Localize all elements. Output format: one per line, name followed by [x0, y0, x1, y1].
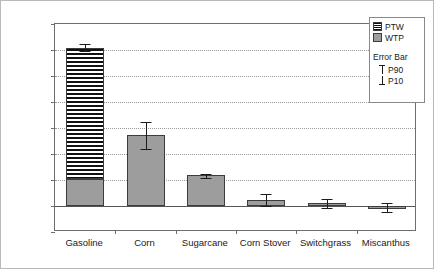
gridline: [55, 76, 415, 77]
y-tick-mark: [51, 180, 55, 181]
error-bar-cap-p90: [321, 199, 332, 200]
error-bar-cap-p10: [200, 178, 211, 179]
x-tick-label: Miscanthus: [362, 237, 410, 248]
y-tick-mark: [51, 50, 55, 51]
legend-error-bar-title: Error Bar: [373, 52, 424, 62]
x-tick-label: Gasoline: [65, 237, 103, 248]
gridline: [55, 50, 415, 51]
error-bar-cap-p90: [200, 174, 211, 175]
legend-item-ptw: PTW: [373, 21, 424, 32]
error-bar-cap-p10: [140, 149, 151, 150]
x-tick-mark: [115, 230, 116, 234]
y-tick-mark: [51, 154, 55, 155]
legend-item-wtp: WTP: [373, 32, 424, 43]
legend-label-p10: P10: [388, 76, 403, 86]
y-tick-mark: [51, 102, 55, 103]
error-bar-stem: [387, 203, 388, 212]
y-tick-mark: [51, 128, 55, 129]
bar-group[interactable]: [66, 24, 104, 230]
x-tick-label: Switchgrass: [300, 237, 351, 248]
bar-group[interactable]: [247, 24, 285, 230]
error-bar-cap-p10: [80, 51, 91, 52]
bar-segment-wtp[interactable]: [66, 179, 104, 206]
legend-swatch-ptw-icon: [373, 22, 382, 31]
y-tick-mark: [51, 76, 55, 77]
gridline: [55, 128, 415, 129]
gridline: [55, 180, 415, 181]
bar-segment-wtp[interactable]: [187, 175, 225, 206]
error-bar-stem: [85, 44, 86, 51]
x-tick-mark: [296, 230, 297, 234]
zero-axis-line: [55, 206, 415, 207]
x-tick-mark: [357, 230, 358, 234]
x-tick-mark: [236, 230, 237, 234]
error-bar-cap-p10: [381, 212, 392, 213]
legend-item-p10: P10: [373, 75, 424, 86]
gridline: [55, 102, 415, 103]
error-bar-cap-p90: [381, 203, 392, 204]
x-tick-label: Corn: [134, 237, 155, 248]
gridline: [55, 154, 415, 155]
error-bar-stem: [266, 194, 267, 206]
legend-label-wtp: WTP: [385, 33, 404, 43]
error-bar-cap-p90: [80, 44, 91, 45]
chart-figure: Fossil Fuels Consumption (MJ/MJ) 1.41.21…: [0, 0, 434, 269]
x-tick-mark: [176, 230, 177, 234]
legend: PTW WTP Error Bar P90 P10: [369, 17, 425, 103]
error-bar-cap-p10: [321, 208, 332, 209]
bar-segment-ptw[interactable]: [66, 48, 104, 179]
legend-item-p90: P90: [373, 64, 424, 75]
error-bar-stem: [327, 199, 328, 208]
error-bar-cap-p90: [261, 194, 272, 195]
y-tick-mark: [51, 24, 55, 25]
bar-group[interactable]: [308, 24, 346, 230]
error-bar-p10-icon: [378, 75, 386, 86]
y-tick-mark: [51, 206, 55, 207]
x-tick-label: Corn Stover: [240, 237, 291, 248]
error-bar-cap-p10: [261, 206, 272, 207]
y-tick-mark: [51, 232, 55, 233]
legend-label-ptw: PTW: [385, 22, 404, 32]
bar-group[interactable]: [187, 24, 225, 230]
legend-swatch-wtp-icon: [373, 33, 382, 42]
x-tick-label: Sugarcane: [182, 237, 228, 248]
error-bar-stem: [146, 122, 147, 150]
bar-group[interactable]: [127, 24, 165, 230]
legend-label-p90: P90: [388, 65, 403, 75]
error-bar-p90-icon: [378, 64, 386, 75]
error-bar-cap-p90: [140, 122, 151, 123]
plot-area: [54, 23, 416, 231]
